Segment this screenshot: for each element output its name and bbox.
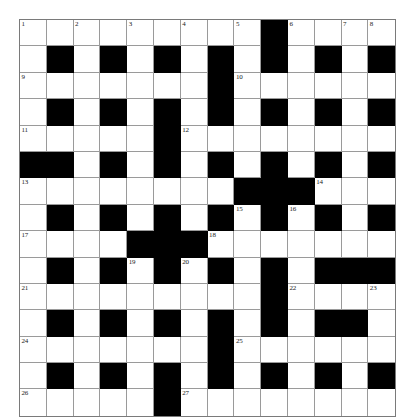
grid-cell[interactable] <box>74 46 101 72</box>
grid-cell[interactable]: 4 <box>181 20 208 46</box>
grid-cell[interactable]: 26 <box>20 389 47 415</box>
grid-cell[interactable] <box>181 205 208 231</box>
grid-cell[interactable]: 16 <box>288 205 315 231</box>
grid-cell[interactable] <box>342 178 369 204</box>
grid-cell[interactable] <box>47 73 74 99</box>
grid-cell[interactable] <box>288 152 315 178</box>
grid-cell[interactable]: 20 <box>181 258 208 284</box>
grid-cell[interactable] <box>154 20 181 46</box>
grid-cell[interactable] <box>181 73 208 99</box>
grid-cell[interactable] <box>154 178 181 204</box>
grid-cell[interactable] <box>127 178 154 204</box>
grid-cell[interactable]: 12 <box>181 126 208 152</box>
grid-cell[interactable]: 24 <box>20 337 47 363</box>
grid-cell[interactable] <box>234 310 261 336</box>
grid-cell[interactable] <box>208 178 235 204</box>
grid-cell[interactable] <box>127 310 154 336</box>
grid-cell[interactable] <box>234 284 261 310</box>
grid-cell[interactable] <box>342 284 369 310</box>
grid-cell[interactable] <box>20 310 47 336</box>
grid-cell[interactable] <box>74 258 101 284</box>
grid-cell[interactable] <box>74 389 101 415</box>
grid-cell[interactable] <box>261 337 288 363</box>
grid-cell[interactable] <box>234 46 261 72</box>
grid-cell[interactable] <box>181 152 208 178</box>
grid-cell[interactable] <box>368 73 395 99</box>
grid-cell[interactable] <box>47 231 74 257</box>
grid-cell[interactable] <box>342 73 369 99</box>
grid-cell[interactable] <box>181 46 208 72</box>
grid-cell[interactable] <box>154 73 181 99</box>
grid-cell[interactable] <box>181 284 208 310</box>
grid-cell[interactable]: 2 <box>74 20 101 46</box>
grid-cell[interactable]: 22 <box>288 284 315 310</box>
grid-cell[interactable]: 23 <box>368 284 395 310</box>
grid-cell[interactable] <box>47 389 74 415</box>
grid-cell[interactable] <box>234 152 261 178</box>
grid-cell[interactable] <box>208 126 235 152</box>
grid-cell[interactable] <box>181 178 208 204</box>
grid-cell[interactable] <box>368 337 395 363</box>
grid-cell[interactable]: 15 <box>234 205 261 231</box>
grid-cell[interactable] <box>74 178 101 204</box>
grid-cell[interactable]: 21 <box>20 284 47 310</box>
grid-cell[interactable] <box>208 284 235 310</box>
grid-cell[interactable] <box>315 73 342 99</box>
grid-cell[interactable] <box>342 389 369 415</box>
grid-cell[interactable] <box>74 152 101 178</box>
grid-cell[interactable] <box>315 20 342 46</box>
grid-cell[interactable]: 17 <box>20 231 47 257</box>
grid-cell[interactable] <box>288 73 315 99</box>
grid-cell[interactable] <box>234 99 261 125</box>
grid-cell[interactable] <box>74 205 101 231</box>
grid-cell[interactable] <box>342 99 369 125</box>
grid-cell[interactable]: 9 <box>20 73 47 99</box>
grid-cell[interactable] <box>20 99 47 125</box>
grid-cell[interactable]: 6 <box>288 20 315 46</box>
grid-cell[interactable] <box>20 205 47 231</box>
grid-cell[interactable] <box>368 231 395 257</box>
grid-cell[interactable] <box>127 284 154 310</box>
grid-cell[interactable] <box>342 152 369 178</box>
grid-cell[interactable]: 5 <box>234 20 261 46</box>
grid-cell[interactable]: 27 <box>181 389 208 415</box>
grid-cell[interactable] <box>100 73 127 99</box>
crossword-grid[interactable]: 1234567891011121314151617181920212223242… <box>19 19 396 417</box>
grid-cell[interactable] <box>208 389 235 415</box>
grid-cell[interactable]: 11 <box>20 126 47 152</box>
grid-cell[interactable] <box>234 258 261 284</box>
grid-cell[interactable] <box>47 178 74 204</box>
grid-cell[interactable] <box>74 284 101 310</box>
grid-cell[interactable]: 7 <box>342 20 369 46</box>
grid-cell[interactable] <box>315 284 342 310</box>
grid-cell[interactable] <box>288 310 315 336</box>
grid-cell[interactable] <box>74 99 101 125</box>
grid-cell[interactable] <box>288 99 315 125</box>
grid-cell[interactable] <box>288 389 315 415</box>
grid-cell[interactable]: 18 <box>208 231 235 257</box>
grid-cell[interactable] <box>342 126 369 152</box>
grid-cell[interactable] <box>368 126 395 152</box>
grid-cell[interactable] <box>127 337 154 363</box>
grid-cell[interactable] <box>368 178 395 204</box>
grid-cell[interactable] <box>20 46 47 72</box>
grid-cell[interactable] <box>288 126 315 152</box>
grid-cell[interactable] <box>261 231 288 257</box>
grid-cell[interactable] <box>47 284 74 310</box>
grid-cell[interactable] <box>315 126 342 152</box>
grid-cell[interactable] <box>181 310 208 336</box>
grid-cell[interactable] <box>288 363 315 389</box>
grid-cell[interactable] <box>368 310 395 336</box>
grid-cell[interactable] <box>315 389 342 415</box>
grid-cell[interactable] <box>342 337 369 363</box>
grid-cell[interactable] <box>368 389 395 415</box>
grid-cell[interactable] <box>127 126 154 152</box>
grid-cell[interactable] <box>127 152 154 178</box>
grid-cell[interactable] <box>74 310 101 336</box>
grid-cell[interactable] <box>234 389 261 415</box>
grid-cell[interactable] <box>154 284 181 310</box>
grid-cell[interactable]: 3 <box>127 20 154 46</box>
grid-cell[interactable] <box>127 389 154 415</box>
grid-cell[interactable] <box>234 363 261 389</box>
grid-cell[interactable] <box>74 73 101 99</box>
